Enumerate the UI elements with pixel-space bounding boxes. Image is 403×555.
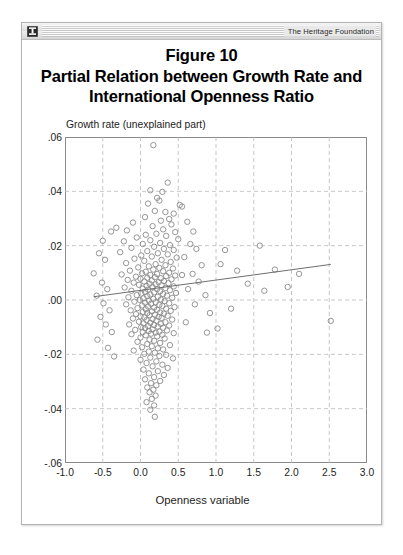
y-tick-label: .00 — [22, 295, 62, 306]
data-point — [222, 247, 227, 252]
data-point — [234, 268, 239, 273]
data-point — [160, 347, 165, 352]
data-point — [169, 277, 174, 282]
data-point — [155, 251, 160, 256]
x-tick-label: -0.5 — [94, 467, 112, 478]
data-point — [160, 269, 165, 274]
data-point — [126, 295, 131, 300]
data-point — [163, 352, 168, 357]
data-point — [132, 299, 137, 304]
data-point — [98, 314, 103, 319]
data-point — [148, 188, 153, 193]
data-point — [262, 288, 267, 293]
data-point — [126, 322, 131, 327]
data-point — [105, 286, 110, 291]
data-point — [124, 228, 129, 233]
data-point — [134, 235, 139, 240]
fit-line — [94, 264, 331, 296]
data-point — [96, 251, 101, 256]
data-point — [149, 254, 154, 259]
data-point — [131, 348, 136, 353]
data-point — [135, 339, 140, 344]
data-point — [125, 277, 130, 282]
data-point — [151, 387, 156, 392]
data-point — [164, 328, 169, 333]
y-tick-label: .02 — [22, 240, 62, 251]
data-point — [161, 246, 166, 251]
data-point — [129, 332, 134, 337]
data-point — [160, 227, 165, 232]
data-point — [188, 241, 193, 246]
data-point — [166, 216, 171, 221]
data-point — [168, 308, 173, 313]
data-point — [130, 316, 135, 321]
data-point — [147, 390, 152, 395]
x-tick-label: 1.5 — [247, 467, 261, 478]
data-point — [245, 281, 250, 286]
x-axis-ticks: -1.0-0.50.00.51.01.52.02.53.0 — [65, 467, 367, 483]
data-point — [145, 201, 150, 206]
data-point — [127, 268, 132, 273]
data-point — [182, 254, 187, 259]
data-point — [148, 407, 153, 412]
data-point — [95, 337, 100, 342]
data-point — [159, 257, 164, 262]
data-point — [152, 414, 157, 419]
data-point — [166, 280, 171, 285]
x-tick-label: -1.0 — [56, 467, 74, 478]
data-point — [228, 306, 233, 311]
chart-area: Growth rate (unexplained part) .06.04.02… — [22, 23, 383, 526]
data-point — [167, 288, 172, 293]
data-point — [165, 180, 170, 185]
data-point — [129, 288, 134, 293]
data-point — [123, 302, 128, 307]
data-point — [144, 360, 149, 365]
data-point — [170, 356, 175, 361]
data-point — [148, 355, 153, 360]
data-point — [171, 247, 176, 252]
x-tick-label: 0.5 — [171, 467, 185, 478]
x-tick-label: 1.0 — [209, 467, 223, 478]
data-point — [154, 231, 159, 236]
y-tick-label: -.02 — [22, 349, 62, 360]
data-point — [131, 280, 136, 285]
data-point — [218, 261, 223, 266]
data-point — [119, 272, 124, 277]
data-point — [136, 265, 141, 270]
regression-line — [94, 264, 331, 296]
data-point — [160, 189, 165, 194]
data-point — [99, 280, 104, 285]
x-tick-label: 2.0 — [284, 467, 298, 478]
data-point — [151, 244, 156, 249]
data-point — [150, 364, 155, 369]
data-point — [163, 263, 168, 268]
data-point — [204, 330, 209, 335]
y-tick-label: .04 — [22, 186, 62, 197]
data-point — [154, 359, 159, 364]
data-point — [163, 233, 168, 238]
gridlines — [65, 137, 367, 463]
data-point — [185, 286, 190, 291]
data-point — [114, 225, 119, 230]
data-point — [139, 253, 144, 258]
data-point — [151, 374, 156, 379]
data-point — [170, 317, 175, 322]
data-point — [148, 238, 153, 243]
x-tick-label: 2.5 — [322, 467, 336, 478]
heritage-emblem-icon — [26, 25, 39, 38]
data-point — [142, 377, 147, 382]
y-axis-label: Growth rate (unexplained part) — [66, 119, 206, 130]
data-point — [109, 329, 114, 334]
data-point — [151, 142, 156, 147]
data-point — [169, 222, 174, 227]
data-point — [101, 301, 106, 306]
data-point — [155, 368, 160, 373]
data-point — [142, 214, 147, 219]
data-point — [142, 258, 147, 263]
data-point — [285, 284, 290, 289]
data-point — [149, 343, 154, 348]
data-point — [167, 242, 172, 247]
data-point — [167, 342, 172, 347]
data-point — [152, 208, 157, 213]
data-point — [203, 292, 208, 297]
